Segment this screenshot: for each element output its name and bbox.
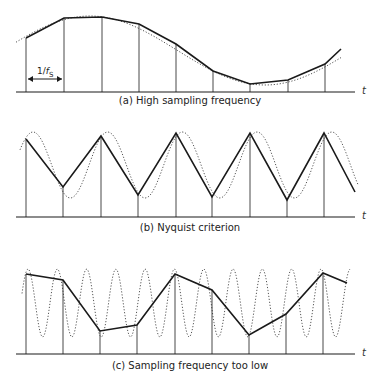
time-axis-label-c: t <box>362 347 366 358</box>
caption-a: (a) High sampling frequency <box>0 95 380 106</box>
caption-b: (b) Nyquist criterion <box>0 222 380 233</box>
analog-signal-a <box>16 16 341 85</box>
time-axis-label-a: t <box>362 85 366 96</box>
reconstructed-signal-b <box>26 133 355 200</box>
reconstructed-signal-a <box>26 17 341 84</box>
arrowhead-left-icon <box>28 76 33 82</box>
analog-signal-b <box>20 132 358 198</box>
caption-c: (c) Sampling frequency too low <box>0 360 380 371</box>
reconstructed-signal-c <box>26 273 347 335</box>
time-axis-label-b: t <box>362 210 366 221</box>
arrowhead-right-icon <box>57 76 62 82</box>
sampling-diagram <box>0 0 380 385</box>
sampling-period-label: 1/fS <box>37 66 53 79</box>
